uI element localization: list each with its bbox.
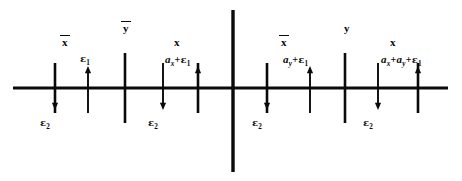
label-x-left-text: x [174,36,180,48]
epsilon1-arrow-1-head [85,66,91,73]
label-epsilon2-2-subscript: 2 [154,123,158,131]
expr-ay-plus-epsilon1: ay+ε1 [283,54,308,68]
label-epsilon2-4-subscript: 2 [369,123,373,131]
expr-epsilon1-eps-sub-0: 1 [86,59,90,67]
expr-ax-plus-epsilon1: ax+ε1 [165,54,190,68]
label-epsilon2-2: ε2 [148,118,158,131]
label-epsilon2-1: ε2 [40,118,50,131]
label-x-bar-left-text: x [62,37,68,48]
diagram-lines [0,0,462,181]
expr-ax-plus-ay-plus-epsilon1-eps-sub-4: 1 [418,60,422,68]
expr-ax-plus-epsilon1-eps-2: ε [181,54,187,65]
label-x-right-text: x [390,36,396,48]
label-x-bar-left: x [62,37,68,48]
expr-ax-plus-ay-plus-epsilon1-a-0: a [381,53,387,65]
label-epsilon2-4: ε2 [363,118,373,131]
expr-ax-plus-epsilon1-eps-sub-2: 1 [187,60,191,68]
label-epsilon2-3-subscript: 2 [258,123,262,131]
label-epsilon2-3: ε2 [252,118,262,131]
epsilon2-arrow-2-head [160,103,166,110]
label-y-right-text: y [344,22,350,34]
label-x-bar-right: x [281,37,287,48]
epsilon2-arrow-3-head [264,103,270,110]
expr-ax-plus-ay-plus-epsilon1-eps-4: ε [412,54,418,65]
epsilon1-arrow-2-head [195,66,201,73]
expr-ax-plus-epsilon1-a-0: a [165,53,171,65]
label-x-left: x [174,37,180,48]
expr-epsilon1: ε1 [80,54,90,67]
label-y-bar-text: y [123,23,129,34]
label-y-bar: y [123,23,129,34]
label-epsilon2-1-subscript: 2 [46,123,50,131]
label-x-right: x [390,37,396,48]
label-y-right: y [344,23,350,34]
figure-canvas: xyxxyx ε1ax+ε1ay+ε1ax+ay+ε1 ε2ε2ε2ε2 [0,0,462,181]
label-x-bar-right-text: x [281,37,287,48]
expr-ay-plus-epsilon1-a-0: a [283,53,289,65]
epsilon2-arrow-4-head [375,103,381,110]
expr-ay-plus-epsilon1-eps-sub-2: 1 [304,60,308,68]
expr-ax-plus-ay-plus-epsilon1: ax+ay+ε1 [381,54,422,68]
epsilon2-arrow-1-head [52,103,58,110]
